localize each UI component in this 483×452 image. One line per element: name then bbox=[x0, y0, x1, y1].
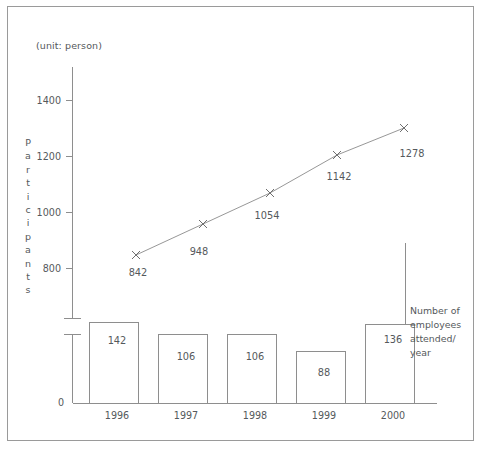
participants-markers bbox=[132, 124, 408, 259]
x-label-1999: 1999 bbox=[312, 410, 336, 421]
x-label-1998: 1998 bbox=[243, 410, 267, 421]
marker-1999 bbox=[333, 151, 341, 159]
y-tick-label-1000: 1000 bbox=[37, 207, 61, 218]
point-value-2000: 1278 bbox=[400, 148, 425, 159]
marker-1998 bbox=[266, 189, 274, 197]
bar-1998 bbox=[228, 335, 277, 404]
x-axis-labels: 1996 1997 1998 1999 2000 bbox=[105, 410, 405, 421]
bar-value-1999: 88 bbox=[318, 367, 330, 378]
point-value-1998: 1054 bbox=[255, 210, 280, 221]
y-tick-group: 1400 1200 1000 800 0 bbox=[37, 95, 73, 408]
bar-value-2000: 136 bbox=[384, 334, 403, 345]
point-value-1997: 948 bbox=[190, 246, 209, 257]
participants-line bbox=[136, 128, 404, 255]
bar-1997 bbox=[159, 335, 208, 404]
marker-1996 bbox=[132, 251, 140, 259]
participants-point-labels: 842 948 1054 1142 1278 bbox=[129, 148, 425, 278]
marker-1997 bbox=[199, 220, 207, 228]
point-value-1999: 1142 bbox=[327, 171, 352, 182]
secondary-axis-note: Number ofemployeesattended/year bbox=[410, 304, 474, 360]
y-tick-label-0: 0 bbox=[58, 397, 64, 408]
point-value-1996: 842 bbox=[129, 267, 148, 278]
x-label-1996: 1996 bbox=[105, 410, 129, 421]
chart-page: (unit: person) Participants 1400 1200 10… bbox=[0, 0, 483, 452]
bar-value-1997: 106 bbox=[177, 351, 196, 362]
bar-value-1996: 142 bbox=[108, 335, 127, 346]
secondary-axis-note-line: year bbox=[410, 346, 474, 360]
bar-value-1998: 106 bbox=[246, 351, 265, 362]
y-tick-label-1400: 1400 bbox=[37, 95, 61, 106]
secondary-axis-note-line: employees bbox=[410, 318, 474, 332]
y-tick-label-800: 800 bbox=[43, 263, 61, 274]
secondary-axis-note-line: attended/ bbox=[410, 332, 474, 346]
x-label-1997: 1997 bbox=[174, 410, 198, 421]
x-label-2000: 2000 bbox=[381, 410, 405, 421]
y-tick-label-1200: 1200 bbox=[37, 151, 61, 162]
chart-canvas: 1400 1200 1000 800 0 142 106 106 88 136 … bbox=[0, 0, 483, 452]
secondary-axis-note-line: Number of bbox=[410, 304, 474, 318]
bar-series: 142 106 106 88 136 bbox=[90, 323, 415, 404]
marker-2000 bbox=[400, 124, 408, 132]
